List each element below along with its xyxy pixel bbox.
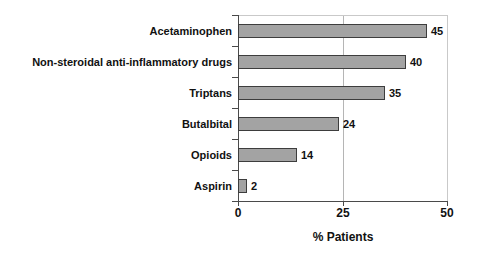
bar-opioids [238, 148, 297, 162]
bar-value-acetaminophen: 45 [431, 24, 443, 38]
bar-chart: Acetaminophen 45 Non-steroidal anti-infl… [0, 0, 478, 256]
xtick-label-50: 50 [427, 206, 467, 220]
xtick-label-0: 0 [218, 206, 258, 220]
xtick-label-25: 25 [323, 206, 363, 220]
category-tick [232, 139, 238, 140]
plot-area [238, 15, 448, 201]
category-tick [232, 15, 238, 16]
category-tick [232, 170, 238, 171]
x-axis-title: % Patients [243, 230, 443, 244]
bar-butalbital [238, 117, 339, 131]
category-tick [232, 77, 238, 78]
bar-value-butalbital: 24 [343, 117, 355, 131]
category-label-nsaids: Non-steroidal anti-inflammatory drugs [0, 55, 232, 69]
gridline-25 [343, 16, 344, 202]
bar-triptans [238, 86, 385, 100]
bar-value-triptans: 35 [389, 86, 401, 100]
bar-value-opioids: 14 [301, 148, 313, 162]
category-tick [232, 46, 238, 47]
bar-value-nsaids: 40 [410, 55, 422, 69]
category-label-butalbital: Butalbital [0, 117, 232, 131]
bar-acetaminophen [238, 24, 427, 38]
category-axis [238, 15, 239, 202]
category-label-opioids: Opioids [0, 148, 232, 162]
category-label-triptans: Triptans [0, 86, 232, 100]
bar-value-aspirin: 2 [251, 179, 257, 193]
bar-aspirin [238, 179, 247, 193]
category-tick [232, 108, 238, 109]
category-label-aspirin: Aspirin [0, 179, 232, 193]
bar-nsaids [238, 55, 406, 69]
category-label-acetaminophen: Acetaminophen [0, 24, 232, 38]
